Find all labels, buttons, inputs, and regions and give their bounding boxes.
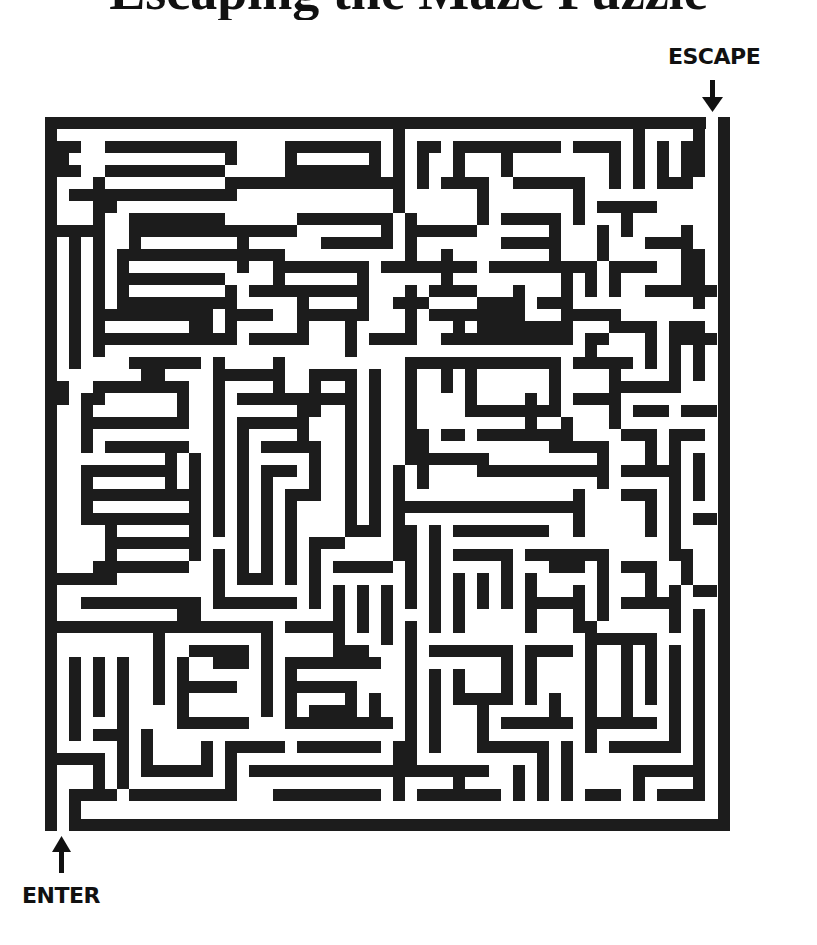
maze-walls (63, 135, 711, 813)
escape-label: ESCAPE (668, 44, 760, 69)
maze (0, 0, 817, 945)
enter-label: ENTER (22, 883, 100, 908)
escape-arrow-icon (702, 80, 723, 112)
enter-arrow-icon (52, 836, 71, 873)
